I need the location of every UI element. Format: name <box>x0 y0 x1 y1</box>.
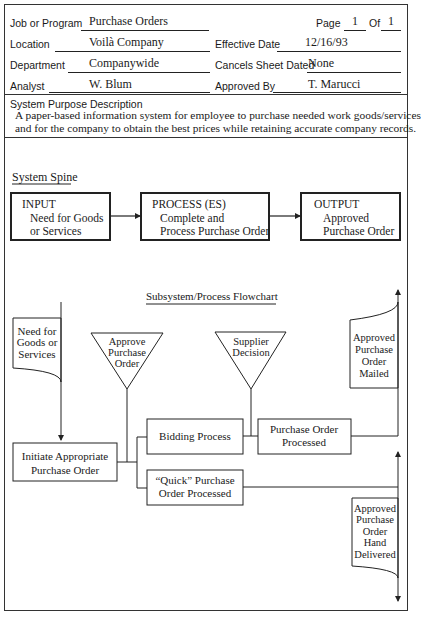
svg-text:Purchase Order: Purchase Order <box>270 423 338 435</box>
bidding-process-box: Bidding Process <box>147 419 243 454</box>
svg-text:Process Purchase Order: Process Purchase Order <box>160 225 269 237</box>
svg-text:Purchase: Purchase <box>356 514 394 525</box>
supplier-decision-triangle: Supplier Decision <box>215 332 286 389</box>
svg-text:Approve: Approve <box>109 336 146 347</box>
svg-text:PROCESS (ES): PROCESS (ES) <box>152 198 226 211</box>
svg-text:Purchase Order: Purchase Order <box>31 464 99 476</box>
svg-text:Initiate Appropriate: Initiate Appropriate <box>22 450 109 462</box>
approve-decision-triangle: Approve Purchase Order <box>91 333 163 389</box>
svg-text:Order: Order <box>363 526 388 537</box>
svg-text:Purchase Order: Purchase Order <box>323 225 394 237</box>
svg-text:Delivered: Delivered <box>354 549 396 560</box>
svg-text:Processed: Processed <box>282 436 326 448</box>
input-document: Need for Goods or Services <box>13 318 61 382</box>
initiate-purchase-order-box: Initiate Appropriate Purchase Order <box>13 443 117 481</box>
hand-delivered-document: Approved Purchase Order Hand Delivered <box>352 498 398 578</box>
po-processed-box: Purchase Order Processed <box>258 419 351 454</box>
svg-text:Decision: Decision <box>232 347 270 358</box>
svg-text:Services: Services <box>18 348 55 360</box>
svg-text:Mailed: Mailed <box>359 368 389 379</box>
svg-text:Approved: Approved <box>354 503 397 514</box>
svg-text:Purchase: Purchase <box>108 347 146 358</box>
svg-text:Approved: Approved <box>353 332 396 343</box>
svg-text:Hand: Hand <box>364 537 387 548</box>
svg-text:Order: Order <box>115 358 140 369</box>
spine-output-box: OUTPUT Approved Purchase Order <box>301 193 400 240</box>
flowchart-title: Subsystem/Process Flowchart <box>146 290 278 302</box>
svg-text:Approved: Approved <box>323 212 369 225</box>
spine-process-box: PROCESS (ES) Complete and Process Purcha… <box>141 193 269 240</box>
svg-text:Order: Order <box>362 356 387 367</box>
svg-text:“Quick” Purchase: “Quick” Purchase <box>155 474 234 486</box>
svg-text:Purchase: Purchase <box>355 344 393 355</box>
svg-text:or Services: or Services <box>30 225 82 237</box>
svg-text:Need for Goods: Need for Goods <box>30 212 104 224</box>
mailed-document: Approved Purchase Order Mailed <box>350 302 398 388</box>
svg-text:Bidding Process: Bidding Process <box>159 430 231 442</box>
svg-text:Order Processed: Order Processed <box>159 487 232 499</box>
svg-text:OUTPUT: OUTPUT <box>314 198 359 210</box>
quick-po-box: “Quick” Purchase Order Processed <box>147 470 243 505</box>
svg-text:Supplier: Supplier <box>233 336 269 347</box>
svg-text:Goods or: Goods or <box>17 336 58 348</box>
svg-text:INPUT: INPUT <box>22 198 56 210</box>
spine-title: System Spine <box>12 170 78 184</box>
spine-input-box: INPUT Need for Goods or Services <box>11 193 110 240</box>
svg-text:Complete and: Complete and <box>160 212 224 225</box>
